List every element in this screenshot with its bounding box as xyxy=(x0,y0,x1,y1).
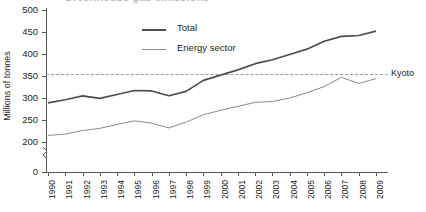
x-tick-2002 xyxy=(255,172,256,176)
x-tick-label-1991: 1991 xyxy=(64,180,74,199)
x-tick-2004 xyxy=(290,172,291,176)
x-tick-1990 xyxy=(48,172,49,176)
legend-label-energy-sector: Energy sector xyxy=(177,42,236,53)
x-tick-2001 xyxy=(238,172,239,176)
chart-legend: Total Energy sector xyxy=(142,20,292,60)
chart-title-text: Greenhouse gas emissions xyxy=(64,0,209,3)
x-tick-2006 xyxy=(324,172,325,176)
y-tick-label-350: 350 xyxy=(22,70,38,81)
x-tick-label-2001: 2001 xyxy=(237,180,247,199)
emissions-line-chart: Greenhouse gas emissions Millions of ton… xyxy=(0,0,426,212)
series-line-energy-sector xyxy=(48,77,376,135)
legend-item-total: Total xyxy=(142,20,292,40)
x-tick-label-2004: 2004 xyxy=(289,180,299,199)
y-tick-label-400: 400 xyxy=(22,48,38,59)
x-axis-line xyxy=(46,172,388,173)
x-tick-2009 xyxy=(376,172,377,176)
x-tick-1995 xyxy=(134,172,135,176)
x-tick-label-1990: 1990 xyxy=(47,180,57,199)
x-tick-label-2006: 2006 xyxy=(323,180,333,199)
y-axis-title: Millions of tonnes xyxy=(0,0,14,172)
x-tick-label-1996: 1996 xyxy=(151,180,161,199)
chart-title-cropped: Greenhouse gas emissions xyxy=(0,0,426,5)
x-tick-1998 xyxy=(186,172,187,176)
x-tick-label-1998: 1998 xyxy=(185,180,195,199)
plot-area: 5004504003503002502000 19901991199219931… xyxy=(46,8,388,172)
x-tick-1993 xyxy=(100,172,101,176)
x-tick-1997 xyxy=(169,172,170,176)
x-tick-2005 xyxy=(307,172,308,176)
x-tick-label-2000: 2000 xyxy=(220,180,230,199)
x-tick-label-2002: 2002 xyxy=(254,180,264,199)
x-tick-label-1995: 1995 xyxy=(133,180,143,199)
x-tick-label-1997: 1997 xyxy=(168,180,178,199)
x-tick-2000 xyxy=(221,172,222,176)
x-tick-label-2005: 2005 xyxy=(306,180,316,199)
x-tick-label-2008: 2008 xyxy=(358,180,368,199)
y-tick-label-450: 450 xyxy=(22,26,38,37)
reference-line-label-kyoto: Kyoto xyxy=(391,68,414,78)
x-tick-label-1992: 1992 xyxy=(82,180,92,199)
y-tick-label-0: 0 xyxy=(33,166,38,177)
x-tick-label-1999: 1999 xyxy=(202,180,212,199)
y-tick-label-300: 300 xyxy=(22,92,38,103)
x-tick-label-2003: 2003 xyxy=(271,180,281,199)
x-tick-1994 xyxy=(117,172,118,176)
x-tick-1999 xyxy=(203,172,204,176)
x-tick-1991 xyxy=(65,172,66,176)
y-tick-label-500: 500 xyxy=(22,4,38,15)
legend-label-total: Total xyxy=(177,22,197,33)
legend-item-energy-sector: Energy sector xyxy=(142,40,292,60)
y-tick-label-200: 200 xyxy=(22,136,38,147)
legend-swatch-total-icon xyxy=(142,29,166,31)
x-tick-2003 xyxy=(272,172,273,176)
x-tick-label-2007: 2007 xyxy=(340,180,350,199)
x-tick-label-2009: 2009 xyxy=(375,180,385,199)
x-tick-1996 xyxy=(152,172,153,176)
y-tick-0: 0 xyxy=(42,172,46,173)
x-tick-label-1994: 1994 xyxy=(116,180,126,199)
legend-swatch-energy-icon xyxy=(142,49,166,50)
x-tick-2008 xyxy=(359,172,360,176)
x-tick-1992 xyxy=(83,172,84,176)
x-tick-label-1993: 1993 xyxy=(99,180,109,199)
y-tick-label-250: 250 xyxy=(22,114,38,125)
x-tick-2007 xyxy=(341,172,342,176)
